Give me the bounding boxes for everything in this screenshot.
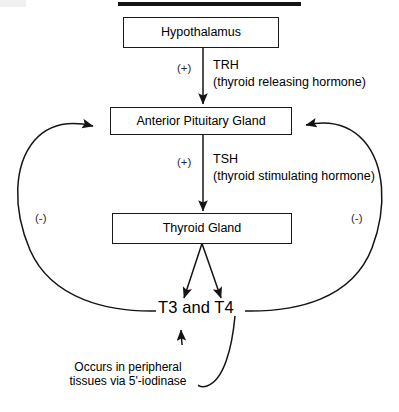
node-hypothalamus-label: Hypothalamus	[161, 26, 241, 39]
edge-label-tsh-abbrev-text: TSH	[213, 152, 238, 166]
edge-label-tsh-expansion-text: (thyroid stimulating hormone)	[213, 169, 375, 183]
edge-label-trh-abbrev: TRH	[213, 59, 239, 73]
edge-label-tsh-abbrev: TSH	[213, 153, 238, 167]
arrow-thyroid-to-t4	[202, 244, 221, 299]
edge-sign-feedback-left-negative: (-)	[35, 212, 47, 226]
annotation-conversion-note-text: Occurs in peripheral tissues via 5'-iodi…	[69, 360, 186, 389]
edge-sign-feedback-right-negative: (-)	[351, 212, 363, 226]
node-thyroid-gland[interactable]: Thyroid Gland	[112, 213, 292, 244]
node-anterior-pituitary-gland-label: Anterior Pituitary Gland	[136, 115, 265, 128]
edge-sign-tsh-positive: (+)	[177, 156, 191, 170]
edge-sign-trh-positive: (+)	[177, 62, 191, 76]
edge-label-trh-abbrev-text: TRH	[213, 58, 239, 72]
edge-label-trh-expansion-text: (thyroid releasing hormone)	[213, 75, 366, 89]
arrow-thyroid-to-t3	[184, 244, 202, 299]
edge-sign-trh-positive-text: (+)	[177, 62, 191, 74]
node-hypothalamus[interactable]: Hypothalamus	[123, 17, 279, 48]
node-t3-and-t4-label: T3 and T4	[158, 298, 234, 316]
node-thyroid-gland-label: Thyroid Gland	[163, 222, 242, 235]
edge-sign-feedback-right-negative-text: (-)	[351, 212, 363, 224]
thyroid-axis-diagram: Hypothalamus Anterior Pituitary Gland Th…	[0, 0, 399, 412]
edge-label-tsh-expansion: (thyroid stimulating hormone)	[213, 170, 375, 184]
node-anterior-pituitary-gland[interactable]: Anterior Pituitary Gland	[110, 107, 292, 135]
edge-label-trh-expansion: (thyroid releasing hormone)	[213, 76, 366, 90]
annotation-conversion-note: Occurs in peripheral tissues via 5'-iodi…	[58, 345, 198, 389]
node-t3-and-t4[interactable]: T3 and T4	[156, 301, 236, 315]
edge-sign-tsh-positive-text: (+)	[177, 156, 191, 168]
edge-sign-feedback-left-negative-text: (-)	[35, 212, 47, 224]
